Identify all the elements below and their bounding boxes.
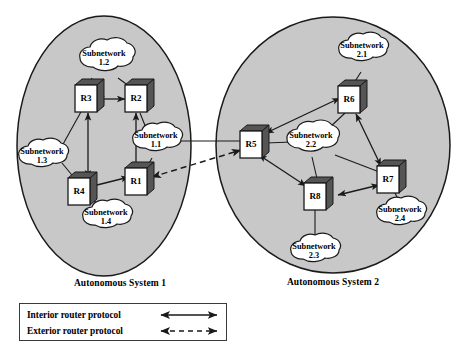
legend-row-exterior: Exterior router protocol <box>27 322 223 339</box>
as2-caption: Autonomous System 2 <box>268 277 398 287</box>
as1-caption: Autonomous System 1 <box>60 278 180 288</box>
legend-label-exterior: Exterior router protocol <box>27 326 155 336</box>
router-r2[interactable] <box>125 79 154 112</box>
legend-row-interior: Interior router protocol <box>27 306 223 323</box>
router-r1[interactable] <box>125 162 154 195</box>
legend-label-interior: Interior router protocol <box>27 310 155 320</box>
legend-interior-arrow-icon <box>155 308 223 322</box>
legend: Interior router protocol Exterior router… <box>19 303 227 341</box>
router-r5[interactable] <box>240 125 269 158</box>
router-r3[interactable] <box>75 79 104 112</box>
diagram-canvas: Subnetwork 1.2 Subnetwork 1.1 Subnetwork… <box>0 0 470 348</box>
legend-exterior-arrow-icon <box>155 324 223 338</box>
router-r6[interactable] <box>338 80 367 113</box>
router-r8[interactable] <box>304 177 333 210</box>
router-r4[interactable] <box>68 172 97 205</box>
router-r7[interactable] <box>377 160 406 193</box>
network-diagram <box>0 0 470 348</box>
